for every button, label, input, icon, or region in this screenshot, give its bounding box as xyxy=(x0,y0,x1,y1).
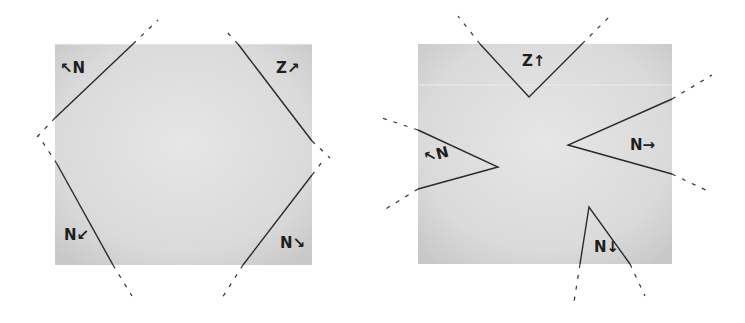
right-ext-right-lower xyxy=(672,174,710,192)
left-paper-sheet xyxy=(55,44,312,265)
right-ext-bottom-left xyxy=(574,264,580,302)
left-label-bottom-left: N↙ xyxy=(64,226,89,244)
left-ext-bottom-right xyxy=(222,265,243,298)
left-panel: ↖N Z↗ N↙ N↘ xyxy=(36,20,330,298)
right-ext-bottom-right xyxy=(630,264,645,296)
right-panel: Z↑ ↖N N→ N↓ xyxy=(382,14,712,302)
left-ext-left-lower xyxy=(38,135,57,164)
diagram-canvas: ↖N Z↗ N↙ N↘ Z↑ ↖N N→ N↓ xyxy=(0,0,745,323)
left-ext-right-upper xyxy=(312,141,330,158)
left-label-top-left: ↖N xyxy=(60,59,85,77)
right-ext-top-left xyxy=(458,16,480,44)
right-ext-left-lower xyxy=(384,189,418,210)
left-ext-bottom-left xyxy=(113,265,132,296)
left-ext-top-left xyxy=(133,20,158,44)
left-label-top-right: Z↗ xyxy=(276,59,299,77)
left-label-bottom-right: N↘ xyxy=(280,234,305,252)
left-ext-left-upper xyxy=(36,118,55,138)
left-ext-right-lower xyxy=(312,158,325,175)
right-label-bottom: N↓ xyxy=(594,238,619,256)
right-label-right: N→ xyxy=(630,136,655,154)
right-ext-top-right xyxy=(582,14,612,44)
right-ext-right-upper xyxy=(672,75,712,99)
right-ext-left-upper xyxy=(382,118,418,130)
right-paper-sheet xyxy=(418,44,672,264)
left-ext-top-right xyxy=(225,30,238,44)
right-label-top: Z↑ xyxy=(522,52,545,70)
